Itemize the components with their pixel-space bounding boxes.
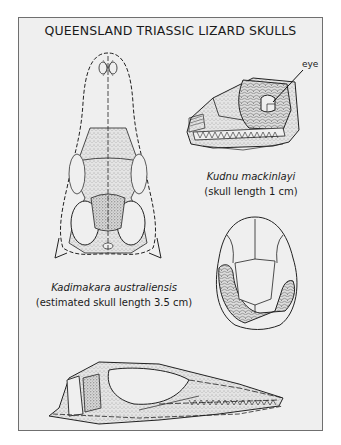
- kadimakara-lateral-skull-illustration: [39, 358, 289, 428]
- figure-title: QUEENSLAND TRIASSIC LIZARD SKULLS: [19, 23, 322, 38]
- kudnu-caption: Kudnu mackinlayi (skull length 1 cm): [191, 169, 311, 199]
- kudnu-size-note: (skull length 1 cm): [204, 186, 297, 197]
- figure-frame: QUEENSLAND TRIASSIC LIZARD SKULLS: [18, 17, 323, 431]
- kadimakara-species-name: Kadimakara australiensis: [19, 280, 209, 295]
- kudnu-species-name: Kudnu mackinlayi: [191, 169, 311, 184]
- kudnu-dorsal-skull-illustration: [205, 213, 305, 333]
- eye-pointer-line: [269, 66, 309, 106]
- kadimakara-size-note: (estimated skull length 3.5 cm): [36, 297, 192, 308]
- kadimakara-caption: Kadimakara australiensis (estimated skul…: [19, 280, 209, 310]
- kadimakara-dorsal-skull-illustration: [33, 48, 183, 273]
